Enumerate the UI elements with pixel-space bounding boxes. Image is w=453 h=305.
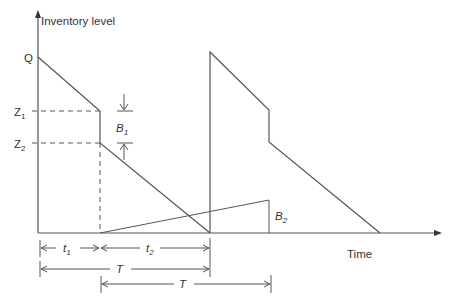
svg-text:t1: t1 — [63, 242, 71, 257]
svg-text:T: T — [179, 278, 187, 290]
level-label-z1: Z1 — [14, 106, 26, 121]
backlog-b2-wedge — [100, 200, 269, 233]
svg-text:Z1: Z1 — [14, 106, 26, 121]
b1-indicator: B1 — [116, 94, 133, 160]
x-axis-arrow-icon — [434, 230, 442, 236]
t-dimension-second: T — [101, 275, 271, 293]
svg-text:B1: B1 — [116, 122, 128, 137]
svg-text:t2: t2 — [146, 242, 154, 257]
inventory-diagram: Inventory level Time Q Z1 Z2 B1 B2 t1 — [0, 0, 453, 305]
t1-dimension: t1 — [40, 240, 99, 257]
t-dimension-first: T — [40, 261, 209, 277]
level-label-q: Q — [24, 52, 33, 64]
svg-text:T: T — [116, 263, 124, 275]
svg-text:B2: B2 — [275, 210, 288, 225]
x-axis-label: Time — [347, 248, 372, 260]
y-axis — [35, 10, 41, 233]
svg-text:Z2: Z2 — [14, 138, 26, 153]
x-axis — [38, 230, 442, 236]
inventory-cycle-2 — [210, 52, 380, 233]
level-label-z2: Z2 — [14, 138, 26, 153]
b2-label: B2 — [275, 210, 288, 225]
y-axis-label: Inventory level — [41, 15, 115, 27]
